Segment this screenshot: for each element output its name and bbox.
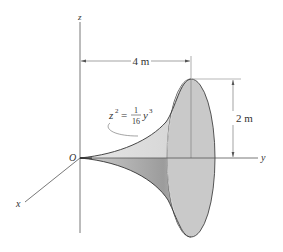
y-axis-label: y	[260, 152, 266, 163]
x-axis-label: x	[15, 198, 21, 209]
svg-text:=: =	[121, 109, 127, 121]
curve-equation: z 2 = 1 16 y 3	[108, 106, 153, 126]
svg-text:z: z	[108, 109, 114, 121]
z-axis-label: z	[77, 12, 82, 22]
origin-label: O	[69, 152, 76, 163]
dim-2m-label: 2 m	[236, 112, 253, 124]
svg-text:1: 1	[134, 106, 138, 115]
svg-text:2: 2	[115, 107, 119, 115]
dim-4m-label: 4 m	[133, 55, 150, 67]
svg-text:3: 3	[149, 107, 153, 115]
dim-4m-arrow-right	[185, 60, 190, 63]
svg-text:16: 16	[132, 117, 140, 126]
svg-text:y: y	[142, 109, 148, 121]
dim-2m-arrow-bottom	[232, 152, 235, 157]
x-axis	[25, 158, 80, 202]
horn-solid-diagram: 4 m 2 m z 2 = 1 16 y 3 z y x O	[0, 0, 283, 252]
dim-4m-arrow-left	[81, 60, 86, 63]
dim-2m-arrow-top	[232, 80, 235, 85]
